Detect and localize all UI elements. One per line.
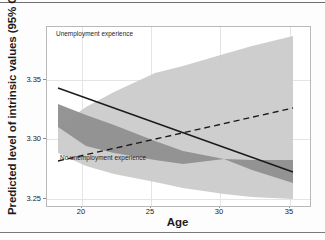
x-tick-label-35: 35: [279, 207, 299, 216]
x-tick-label-20: 20: [71, 207, 91, 216]
page-rule-top: [0, 2, 325, 3]
y-tick-label-325: 3.25: [15, 194, 41, 203]
plot-svg: [47, 27, 310, 206]
y-axis-title: Predicted level of intrinsic values (95%…: [6, 15, 18, 215]
chart-figure: Predicted level of intrinsic values (95%…: [0, 4, 325, 230]
x-axis-title: Age: [46, 216, 309, 228]
plot-panel: Unemployment experience No unemployment …: [46, 26, 311, 207]
y-tick-label-330: 3.30: [15, 134, 41, 143]
x-tick-label-30: 30: [209, 207, 229, 216]
y-tick-label-335: 3.35: [15, 75, 41, 84]
ci-band-no-unemployment: [58, 36, 293, 199]
annotation-unemployment-experience: Unemployment experience: [56, 30, 133, 37]
figure-page: Predicted level of intrinsic values (95%…: [0, 0, 325, 240]
annotation-no-unemployment-experience: No unemployment experience: [60, 154, 146, 161]
x-tick-label-25: 25: [140, 207, 160, 216]
page-rule-bottom: [0, 232, 325, 233]
